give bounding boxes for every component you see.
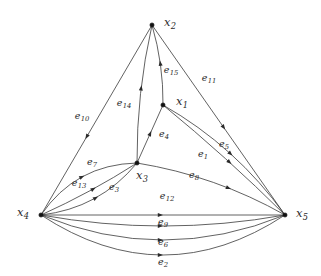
edge-label-e9: e9: [158, 217, 168, 227]
edge-label-e13: e13: [72, 178, 86, 188]
edge-label-subscript: 9: [164, 221, 168, 229]
edge-e7: [41, 163, 137, 215]
edge-label-subscript: 10: [81, 115, 90, 123]
edge-label-e3: e3: [109, 182, 119, 192]
vertex-dot-x5: [283, 213, 287, 217]
edge-label-subscript: 12: [166, 195, 175, 203]
vertex-label-x5: x5: [296, 208, 308, 220]
edge-label-base: e: [202, 72, 208, 83]
arrowhead-e3: [93, 195, 100, 201]
edge-label-base: e: [198, 148, 204, 159]
edge-label-base: e: [72, 177, 78, 188]
vertex-dot-x1: [161, 103, 165, 107]
edge-e14: [137, 25, 152, 163]
vertex-dot-x2: [150, 23, 154, 27]
edge-label-e2: e2: [158, 257, 168, 267]
graph-figure: e1e2e3e4e5e6e7e8e9e10e11e12e13e14e15x1x2…: [0, 0, 321, 276]
edge-label-subscript: 14: [123, 102, 132, 110]
edge-label-base: e: [164, 64, 170, 75]
edge-e1: [163, 105, 285, 215]
edge-label-subscript: 15: [170, 69, 179, 77]
vertex-label-subscript: 1: [183, 100, 188, 110]
vertex-label-subscript: 4: [24, 211, 29, 221]
vertex-label-base: x: [296, 206, 303, 220]
edge-label-base: e: [75, 110, 81, 121]
edge-label-subscript: 13: [78, 182, 87, 190]
arrowheads-layer: [79, 60, 234, 257]
edge-label-e6: e6: [158, 237, 168, 247]
edge-label-base: e: [158, 236, 164, 247]
edge-label-base: e: [189, 169, 195, 180]
vertex-label-x1: x1: [176, 96, 188, 108]
edge-label-e4: e4: [159, 129, 169, 139]
vertex-label-subscript: 2: [171, 21, 176, 31]
edge-label-e10: e10: [75, 111, 89, 121]
arrowhead-e8: [225, 185, 231, 191]
vertex-label-base: x: [164, 15, 171, 29]
arrowhead-e11: [221, 124, 227, 131]
vertex-dot-x3: [135, 161, 139, 165]
edge-label-base: e: [160, 190, 166, 201]
edge-e10: [41, 25, 152, 215]
edge-label-subscript: 7: [93, 161, 97, 169]
edge-label-base: e: [158, 256, 164, 267]
vertex-label-base: x: [17, 205, 24, 219]
vertex-label-base: x: [176, 94, 183, 108]
vertex-label-x2: x2: [164, 17, 176, 29]
vertex-label-x4: x4: [17, 207, 29, 219]
edge-label-base: e: [87, 156, 93, 167]
edge-e8: [137, 163, 285, 215]
edge-label-subscript: 5: [225, 143, 229, 151]
edge-label-e15: e15: [164, 65, 178, 75]
edge-label-e1: e1: [198, 149, 208, 159]
arrowhead-e14: [139, 85, 144, 91]
edge-label-e12: e12: [160, 191, 174, 201]
vertex-label-x3: x3: [136, 170, 148, 182]
edge-label-e7: e7: [87, 157, 97, 167]
edge-label-e11: e11: [202, 73, 216, 83]
edge-label-subscript: 11: [208, 77, 217, 85]
edge-label-subscript: 6: [164, 241, 168, 249]
edge-label-base: e: [158, 216, 164, 227]
arrowhead-e13: [90, 186, 96, 192]
edge-e3: [41, 163, 137, 215]
arrowhead-e4: [147, 130, 153, 136]
edge-e11: [152, 25, 285, 215]
edge-label-base: e: [159, 128, 165, 139]
edge-label-base: e: [219, 138, 225, 149]
arrowhead-e10: [84, 134, 90, 141]
vertex-label-base: x: [136, 168, 143, 182]
vertex-dot-x4: [39, 213, 43, 217]
edge-label-e8: e8: [189, 170, 199, 180]
edge-label-e5: e5: [219, 139, 229, 149]
edge-label-subscript: 1: [204, 153, 208, 161]
edge-label-base: e: [117, 97, 123, 108]
edge-label-base: e: [109, 181, 115, 192]
edge-label-subscript: 8: [195, 174, 199, 182]
edge-label-subscript: 3: [115, 186, 119, 194]
edge-e5: [163, 105, 285, 215]
edge-label-subscript: 2: [164, 261, 168, 269]
edge-label-e14: e14: [117, 98, 131, 108]
edge-label-subscript: 4: [165, 133, 169, 141]
edge-e13: [41, 163, 137, 215]
vertex-label-subscript: 5: [303, 212, 308, 222]
vertex-label-subscript: 3: [143, 174, 148, 184]
